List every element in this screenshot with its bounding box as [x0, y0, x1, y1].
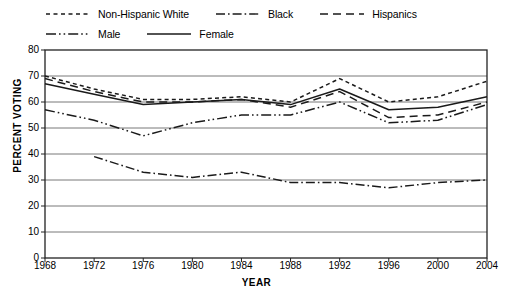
y-tick-label: 70 — [9, 71, 39, 81]
y-tick-label: 20 — [9, 201, 39, 211]
y-tick-label: 40 — [9, 149, 39, 159]
series-line — [45, 102, 487, 136]
y-tick-label: 80 — [9, 45, 39, 55]
y-tick-label: 50 — [9, 123, 39, 133]
series-line — [94, 157, 487, 188]
x-tick-label: 1972 — [71, 261, 117, 271]
x-tick-label: 1976 — [120, 261, 166, 271]
x-tick-label: 2004 — [464, 261, 510, 271]
chart-canvas — [0, 0, 513, 299]
x-tick-label: 1968 — [22, 261, 68, 271]
x-tick-label: 1996 — [366, 261, 412, 271]
x-tick-label: 1992 — [317, 261, 363, 271]
y-tick-label: 60 — [9, 97, 39, 107]
x-tick-label: 1980 — [169, 261, 215, 271]
x-tick-label: 2000 — [415, 261, 461, 271]
series-line — [45, 84, 487, 110]
x-tick-label: 1988 — [268, 261, 314, 271]
y-tick-label: 10 — [9, 227, 39, 237]
plot-area: PERCENT VOTING YEAR 01020304050607080 19… — [0, 0, 513, 299]
x-tick-label: 1984 — [218, 261, 264, 271]
chart-root: Non-Hispanic White Black Hispanics Ma — [0, 0, 513, 299]
y-tick-label: 30 — [9, 175, 39, 185]
